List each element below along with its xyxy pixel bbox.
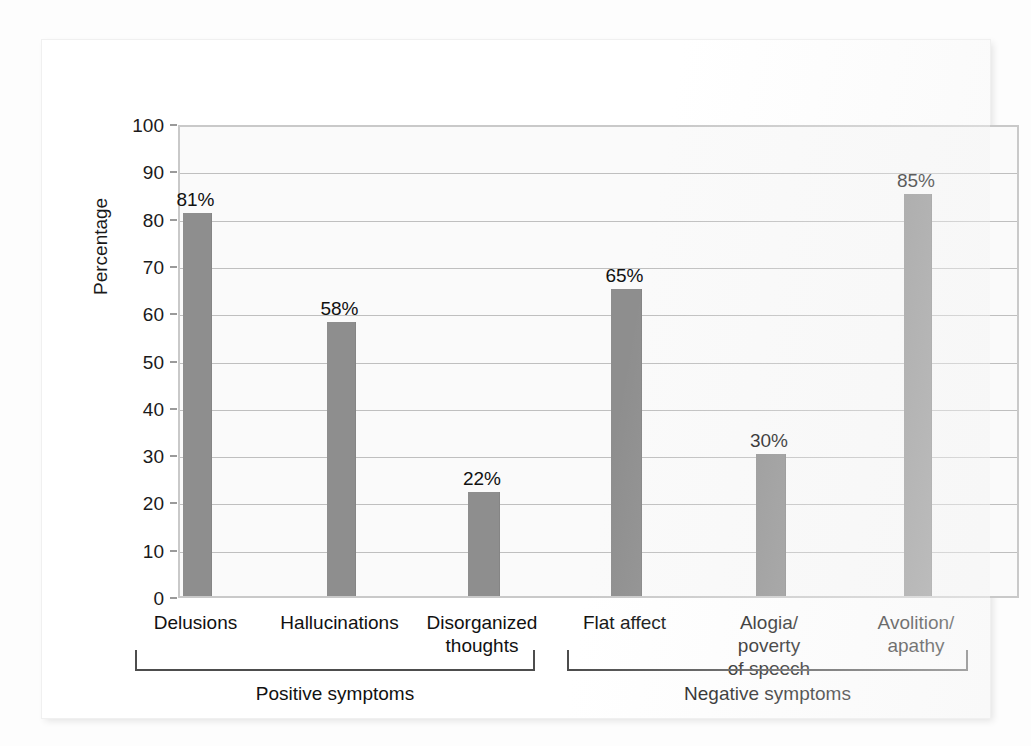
y-axis-tick-mark xyxy=(170,361,177,363)
y-axis-tick-label: 40 xyxy=(118,400,164,419)
bar-value-label: 85% xyxy=(872,171,960,190)
y-axis-tick-label: 50 xyxy=(118,353,164,372)
gridline xyxy=(180,221,1017,222)
y-axis-tick-label: 90 xyxy=(118,163,164,182)
y-axis-tick-label: 20 xyxy=(118,494,164,513)
gridline xyxy=(180,457,1017,458)
bar xyxy=(183,213,212,596)
group-bracket xyxy=(567,650,968,671)
bar-value-label: 58% xyxy=(295,299,384,318)
bar xyxy=(468,492,500,596)
group-bracket xyxy=(135,650,535,671)
gridline xyxy=(180,363,1017,364)
figure-root: Percentage 1009080706050403020100 81%58%… xyxy=(0,0,1031,746)
bar-value-label: 81% xyxy=(151,190,240,209)
y-axis-tick-mark xyxy=(170,219,177,221)
category-label: Delusions xyxy=(116,612,276,635)
bar xyxy=(611,289,642,596)
y-axis-tick-label: 100 xyxy=(118,116,164,135)
y-axis-tick-mark xyxy=(170,266,177,268)
bar xyxy=(756,454,786,596)
group-bracket-label: Negative symptoms xyxy=(567,684,968,703)
y-axis-tick-label: 0 xyxy=(118,589,164,608)
y-axis-tick-mark xyxy=(170,455,177,457)
y-axis-tick-label: 10 xyxy=(118,542,164,561)
y-axis-tick-mark xyxy=(170,313,177,315)
y-axis-tick-mark xyxy=(170,502,177,504)
category-label: Hallucinations xyxy=(260,612,420,635)
bar-value-label: 22% xyxy=(436,469,528,488)
category-label: Flat affect xyxy=(545,612,705,635)
y-axis-tick-mark xyxy=(170,124,177,126)
y-axis-tick-label: 80 xyxy=(118,211,164,230)
y-axis-tick-mark xyxy=(170,171,177,173)
bar-value-label: 65% xyxy=(579,266,670,285)
bar xyxy=(327,322,356,596)
y-axis-tick-mark xyxy=(170,597,177,599)
gridline xyxy=(180,410,1017,411)
bar xyxy=(904,194,932,596)
group-bracket-label: Positive symptoms xyxy=(135,684,535,703)
gridline xyxy=(180,552,1017,553)
scanned-page-card: Percentage 1009080706050403020100 81%58%… xyxy=(42,40,990,718)
y-axis-tick-label: 70 xyxy=(118,258,164,277)
plot-area xyxy=(178,125,1019,598)
y-axis-title: Percentage xyxy=(90,198,112,295)
y-axis-tick-label: 30 xyxy=(118,447,164,466)
y-axis-tick-label: 60 xyxy=(118,305,164,324)
bar-value-label: 30% xyxy=(724,431,814,450)
gridline xyxy=(180,504,1017,505)
y-axis-tick-mark xyxy=(170,408,177,410)
y-axis-tick-mark xyxy=(170,550,177,552)
